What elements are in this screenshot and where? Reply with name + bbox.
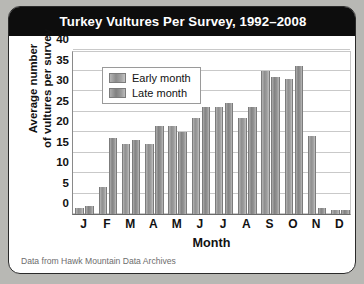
bar-group (282, 52, 305, 214)
bar-group (213, 52, 236, 214)
bar-group (329, 52, 352, 214)
y-axis-tick-label: 15 (56, 136, 69, 148)
legend-label-late: Late month (132, 87, 187, 99)
bar (238, 118, 247, 214)
legend-label-early: Early month (132, 72, 191, 84)
page-title: Turkey Vultures Per Survey, 1992–2008 (60, 14, 307, 29)
x-axis-tick-label: M (167, 217, 187, 231)
bar-group (259, 52, 282, 214)
bar (145, 144, 154, 214)
bar (192, 118, 201, 214)
bar (85, 206, 94, 214)
bar (308, 136, 317, 214)
y-axis-tick-label: 10 (56, 156, 69, 168)
bar (109, 138, 118, 214)
bar (248, 107, 257, 214)
y-axis-ticks: 0510152025303540 (45, 45, 69, 221)
bar (285, 79, 294, 214)
x-axis-tick-label: M (120, 217, 140, 231)
gridline (73, 49, 350, 50)
source-note: Data from Hawk Mountain Data Archives (21, 256, 176, 266)
x-axis-tick-label: A (236, 217, 256, 231)
bar (261, 71, 270, 215)
legend-swatch-late-icon (109, 88, 126, 98)
bar-group (236, 52, 259, 214)
x-axis-tick-label: D (329, 217, 349, 231)
bar (202, 107, 211, 214)
x-axis-ticks: JFMAMJJASOND (72, 217, 351, 235)
bar (318, 208, 327, 214)
bar (341, 210, 350, 214)
x-axis-tick-label: F (97, 217, 117, 231)
x-axis-tick-label: S (260, 217, 280, 231)
y-axis-tick-label: 5 (63, 177, 69, 189)
chart-card: Turkey Vultures Per Survey, 1992–2008 Av… (8, 6, 356, 274)
x-axis-tick-label: O (283, 217, 303, 231)
bar (331, 210, 340, 214)
x-axis-tick-label: J (190, 217, 210, 231)
bar-group (73, 52, 96, 214)
x-axis-tick-label: A (143, 217, 163, 231)
bar (132, 140, 141, 214)
bar (155, 126, 164, 214)
y-axis-tick-label: 35 (56, 54, 69, 66)
x-axis-tick-label: J (213, 217, 233, 231)
bar-group (306, 52, 329, 214)
bar (225, 103, 234, 214)
y-axis-tick-label: 30 (56, 74, 69, 86)
bar (178, 132, 187, 214)
x-axis-tick-label: N (306, 217, 326, 231)
bar (271, 77, 280, 214)
y-axis-title-line-1: Average number (27, 14, 41, 164)
bar (168, 126, 177, 214)
y-axis-tick-label: 0 (63, 197, 69, 209)
y-axis-tick-label: 20 (56, 115, 69, 127)
legend-swatch-early-icon (109, 73, 126, 83)
bar (122, 144, 131, 214)
x-axis-tick-label: J (74, 217, 94, 231)
y-axis-tick-label: 25 (56, 95, 69, 107)
bar (75, 208, 84, 214)
legend-item-late: Late month (109, 87, 191, 99)
bar (295, 66, 304, 214)
bar (99, 187, 108, 214)
chart-title-bar: Turkey Vultures Per Survey, 1992–2008 (8, 6, 356, 36)
x-axis-title: Month (72, 236, 351, 250)
legend-item-early: Early month (109, 72, 191, 84)
y-axis-tick-label: 40 (56, 33, 69, 45)
chart-legend: Early month Late month (102, 67, 201, 104)
bar (215, 107, 224, 214)
